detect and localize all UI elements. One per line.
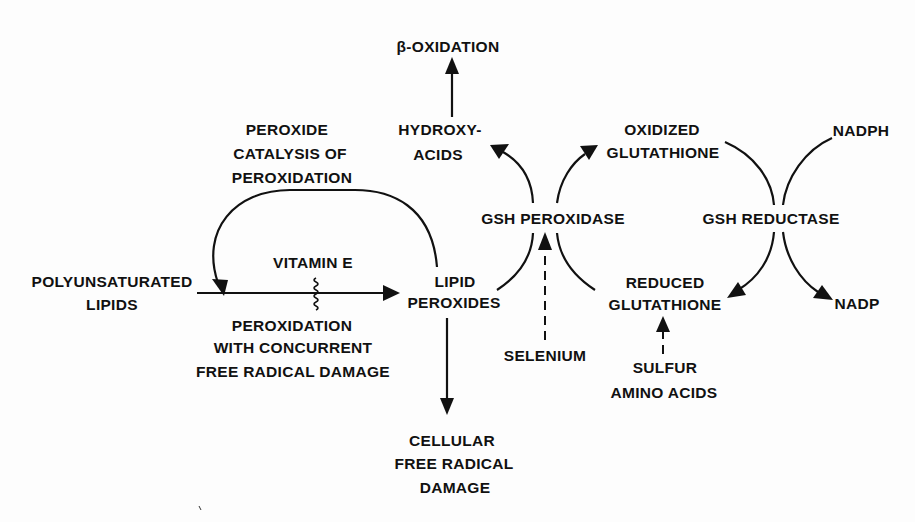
svg-text:OXIDIZED: OXIDIZED — [624, 121, 700, 138]
svg-text:CELLULAR: CELLULAR — [409, 432, 495, 449]
vitamin-e-inhibition-mark — [314, 278, 318, 310]
node-sulfur-amino-acids: SULFUR AMINO ACIDS — [611, 359, 718, 401]
enzyme-gsh-peroxidase: GSH PEROXIDASE — [481, 210, 625, 227]
svg-text:FREE RADICAL DAMAGE: FREE RADICAL DAMAGE — [196, 363, 390, 380]
node-cellular-damage: CELLULAR FREE RADICAL DAMAGE — [395, 432, 514, 496]
node-reduced-glutathione: REDUCED GLUTATHIONE — [609, 274, 722, 313]
arrow-sulfur-to-reduced-glutathione — [656, 316, 670, 354]
label-peroxidation-damage: PEROXIDATION WITH CONCURRENT FREE RADICA… — [196, 317, 390, 380]
arrow-hydroxy-to-beta-oxidation — [445, 57, 459, 117]
svg-text:PEROXIDATION: PEROXIDATION — [232, 317, 352, 334]
svg-text:LIPIDS: LIPIDS — [86, 296, 138, 313]
svg-text:AMINO ACIDS: AMINO ACIDS — [611, 384, 718, 401]
pathway-diagram: β-OXIDATION HYDROXY- ACIDS OXIDIZED GLUT… — [0, 0, 915, 522]
svg-text:LIPID: LIPID — [434, 273, 475, 290]
node-nadp: NADP — [834, 295, 879, 312]
svg-text:DAMAGE: DAMAGE — [420, 479, 491, 496]
node-hydroxy-acids: HYDROXY- ACIDS — [398, 121, 481, 163]
node-vitamin-e: VITAMIN E — [273, 254, 353, 271]
diagram-canvas: β-OXIDATION HYDROXY- ACIDS OXIDIZED GLUT… — [0, 0, 915, 522]
svg-text:HYDROXY-: HYDROXY- — [398, 121, 481, 138]
svg-text:PEROXIDES: PEROXIDES — [407, 294, 500, 311]
arrow-peroxide-catalysis-loop — [212, 190, 437, 296]
svg-text:FREE RADICAL: FREE RADICAL — [395, 455, 514, 472]
svg-text:PEROXIDATION: PEROXIDATION — [232, 169, 352, 186]
svg-text:GLUTATHIONE: GLUTATHIONE — [607, 144, 720, 161]
svg-text:SULFUR: SULFUR — [633, 359, 698, 376]
label-peroxide-catalysis: PEROXIDE CATALYSIS OF PEROXIDATION — [232, 121, 352, 186]
enzyme-gsh-reductase: GSH REDUCTASE — [702, 210, 839, 227]
node-lipid-peroxides: LIPID PEROXIDES — [407, 273, 500, 311]
svg-text:PEROXIDE: PEROXIDE — [246, 121, 329, 138]
node-selenium: SELENIUM — [504, 347, 587, 364]
node-beta-oxidation: β-OXIDATION — [397, 38, 500, 55]
scan-artifact — [199, 506, 201, 510]
svg-text:WITH CONCURRENT: WITH CONCURRENT — [214, 339, 373, 356]
svg-text:ACIDS: ACIDS — [413, 146, 463, 163]
svg-text:POLYUNSATURATED: POLYUNSATURATED — [32, 273, 193, 290]
svg-text:GLUTATHIONE: GLUTATHIONE — [609, 296, 722, 313]
node-oxidized-glutathione: OXIDIZED GLUTATHIONE — [607, 121, 720, 161]
arrow-lipids-to-peroxides — [197, 285, 400, 301]
arrow-selenium-to-peroxidase — [538, 232, 552, 340]
arrow-peroxides-to-cellular-damage — [440, 318, 454, 415]
svg-text:CATALYSIS OF: CATALYSIS OF — [233, 145, 347, 162]
node-nadph: NADPH — [833, 122, 890, 139]
node-polyunsaturated-lipids: POLYUNSATURATED LIPIDS — [32, 273, 193, 313]
svg-text:REDUCED: REDUCED — [626, 274, 705, 291]
